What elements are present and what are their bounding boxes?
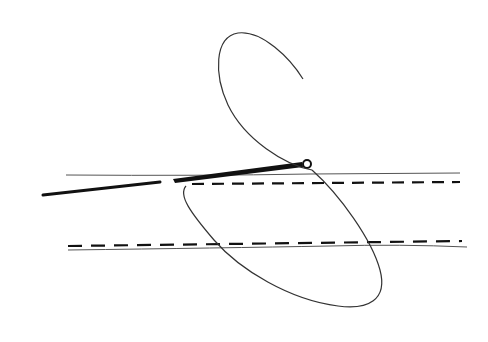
upper-tissue-edge — [66, 173, 460, 175]
needle — [173, 162, 303, 183]
needle-eye-icon — [303, 160, 311, 168]
diagram-canvas — [0, 0, 488, 342]
suture-loop-lower — [184, 170, 382, 307]
suture-loop-upper — [219, 33, 312, 170]
thread-tail — [43, 182, 160, 195]
suture-diagram — [0, 0, 488, 342]
